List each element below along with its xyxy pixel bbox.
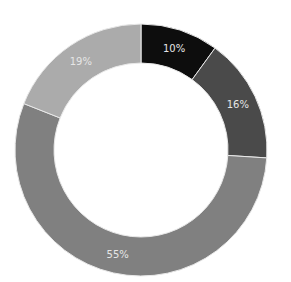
segment-label: 55% <box>107 249 129 260</box>
donut-chart: 10%16%55%19% <box>0 0 291 282</box>
segment-label: 19% <box>70 56 92 67</box>
segment-label: 16% <box>227 99 249 110</box>
donut-segments <box>15 24 267 276</box>
segment-label: 10% <box>163 43 185 54</box>
donut-segment <box>24 24 141 118</box>
